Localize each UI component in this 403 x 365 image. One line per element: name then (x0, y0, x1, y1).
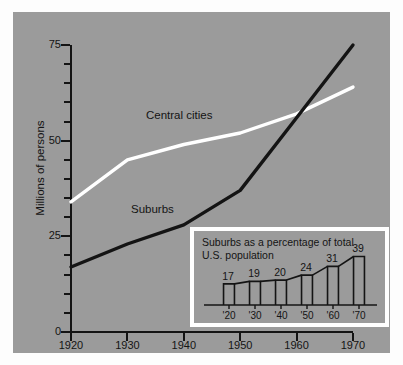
series-line-central-cities (71, 87, 353, 202)
inset-ramp-segment (234, 281, 249, 283)
inset-bar (302, 275, 313, 305)
inset-value-label: 24 (294, 262, 318, 273)
inset-value-label: 17 (216, 271, 240, 282)
inset-bar (354, 256, 365, 305)
plot-canvas: 0255075 Millions of persons 192019301940… (13, 12, 390, 353)
inset-value-label: 39 (346, 243, 370, 254)
inset-value-label: 31 (320, 253, 344, 264)
inset-x-tick-label: '50 (294, 311, 320, 321)
inset-bar (276, 280, 287, 305)
inset-x-tick-label: '20 (216, 311, 242, 321)
inset-x-tick-label: '60 (320, 311, 346, 321)
inset-x-tick-label: '30 (242, 311, 268, 321)
chart-figure: 0255075 Millions of persons 192019301940… (0, 0, 403, 365)
inset-bar (250, 281, 261, 305)
series-label-suburbs: Suburbs (131, 204, 174, 216)
inset-x-tick-label: '40 (268, 311, 294, 321)
series-label-central-cities: Central cities (146, 110, 212, 122)
inset-ramp-segment (260, 280, 275, 281)
inset-value-label: 19 (242, 268, 266, 279)
inset-chart: Suburbs as a percentage of total U.S. po… (190, 227, 389, 327)
inset-bar (224, 284, 235, 305)
inset-value-label: 20 (268, 267, 292, 278)
inset-bar (328, 266, 339, 305)
inset-x-tick-label: '70 (346, 311, 372, 321)
